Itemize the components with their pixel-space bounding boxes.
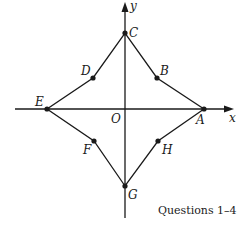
coordinate-diagram: y x O A B C D E F G H Questions 1–4 — [0, 0, 251, 225]
label-e: E — [34, 95, 44, 109]
label-c: C — [129, 26, 138, 40]
label-a: A — [195, 113, 205, 127]
caption: Questions 1–4 — [158, 204, 237, 217]
label-d: D — [80, 64, 91, 78]
x-axis-label: x — [229, 111, 236, 125]
point-e — [44, 106, 49, 111]
point-c — [122, 30, 127, 35]
label-b: B — [159, 64, 169, 78]
point-h — [155, 138, 160, 143]
origin-label: O — [111, 112, 121, 126]
point-g — [122, 183, 127, 188]
y-axis-label: y — [129, 0, 137, 13]
label-f: F — [82, 143, 92, 157]
point-a — [201, 106, 206, 111]
point-d — [90, 75, 95, 80]
label-h: H — [161, 143, 173, 157]
point-b — [154, 75, 159, 80]
point-f — [91, 138, 96, 143]
label-g: G — [128, 188, 138, 202]
y-axis-arrow-icon — [122, 2, 129, 12]
